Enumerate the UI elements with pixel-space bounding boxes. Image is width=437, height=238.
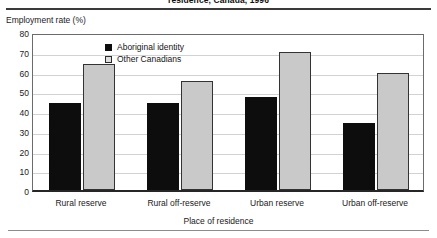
title-divider-rule [6,8,431,10]
y-axis-tick-label: 70 [3,50,29,59]
x-axis-category-label: Urban off-reserve [312,198,437,208]
y-axis-tick-labels: 01020304050607080 [0,34,29,192]
plot-inner [33,35,423,190]
bar [377,73,409,190]
plot-area: Aboriginal identity Other Canadians [32,34,424,192]
bar-group [229,35,327,190]
y-axis-tick-label: 30 [3,129,29,138]
bar [279,52,311,190]
y-axis-tick-label: 10 [3,168,29,177]
x-axis-category-labels: Rural reserveRural off-reserveUrban rese… [32,198,424,212]
y-axis-tick-label: 0 [3,188,29,197]
bar [49,103,81,190]
legend-swatch-dark-square-icon [105,44,112,51]
bar-group [327,35,425,190]
bar [147,103,179,190]
y-axis-tick-label: 40 [3,109,29,118]
y-axis-tick-label: 80 [3,30,29,39]
bar [181,81,213,190]
y-axis-tick-label: 60 [3,70,29,79]
y-axis-tick-label: 50 [3,89,29,98]
legend-item-other-canadians: Other Canadians [105,53,184,65]
bar [245,97,277,190]
x-axis-title: Place of residence [0,216,437,226]
figure-title: residence, Canada, 1996 [0,0,437,5]
y-axis-title: Employment rate (%) [6,15,86,25]
chart-legend: Aboriginal identity Other Canadians [105,41,184,65]
legend-item-aboriginal-identity: Aboriginal identity [105,41,184,53]
y-axis-tick-label: 20 [3,149,29,158]
footer-rule [8,230,429,231]
legend-swatch-light-square-icon [105,56,112,63]
legend-label-aboriginal-identity: Aboriginal identity [117,41,184,53]
bar [83,64,115,190]
bar [343,123,375,190]
figure-title-clip: residence, Canada, 1996 [0,0,437,7]
legend-label-other-canadians: Other Canadians [117,53,181,65]
